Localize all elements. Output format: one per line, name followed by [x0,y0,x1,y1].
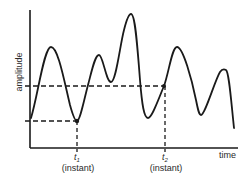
t2-label: t2 [162,152,169,163]
signal-waveform [31,14,234,128]
t2-caption: (instant) [150,163,183,173]
t1-caption: (instant) [62,163,95,173]
t2-point [162,84,166,88]
y-axis-label: amplitude [14,52,24,91]
x-axis-label: time [219,150,236,160]
t1-label: t1 [74,152,80,163]
t1-point [75,119,79,123]
amplitude-time-diagram: amplitude time t1 (instant) t2 (instant) [0,0,250,185]
